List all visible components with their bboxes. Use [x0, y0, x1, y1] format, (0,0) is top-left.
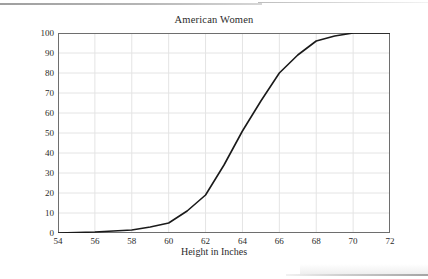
y-tick-label: 50 — [30, 129, 54, 138]
x-tick-label: 70 — [341, 237, 365, 246]
plot-area — [58, 33, 390, 233]
scan-artifact-top-line-faint — [258, 2, 428, 3]
y-tick-label: 10 — [30, 209, 54, 218]
x-tick-label: 54 — [46, 237, 70, 246]
scan-artifact-top-line — [0, 3, 262, 5]
chart-title: American Women — [0, 14, 428, 25]
x-tick-label: 56 — [83, 237, 107, 246]
x-tick-label: 62 — [194, 237, 218, 246]
x-tick-label: 60 — [157, 237, 181, 246]
y-tick-label: 40 — [30, 149, 54, 158]
x-axis-label: Height in Inches — [0, 246, 428, 257]
y-tick-label: 70 — [30, 89, 54, 98]
y-tick-label: 90 — [30, 49, 54, 58]
y-tick-label: 100 — [30, 29, 54, 38]
chart-page: American Women Percentage of Women Who A… — [0, 0, 428, 279]
ogive-chart-svg — [58, 33, 390, 233]
x-tick-label: 68 — [304, 237, 328, 246]
y-tick-label: 30 — [30, 169, 54, 178]
x-tick-label: 66 — [267, 237, 291, 246]
y-tick-label: 20 — [30, 189, 54, 198]
gridlines — [58, 33, 390, 233]
x-tick-label: 58 — [120, 237, 144, 246]
scan-artifact-bottom-smudge — [300, 264, 428, 274]
x-tick-label: 72 — [378, 237, 402, 246]
y-tick-label: 60 — [30, 109, 54, 118]
y-tick-label: 80 — [30, 69, 54, 78]
x-tick-label: 64 — [230, 237, 254, 246]
scan-artifact-bottom-line — [286, 274, 428, 276]
